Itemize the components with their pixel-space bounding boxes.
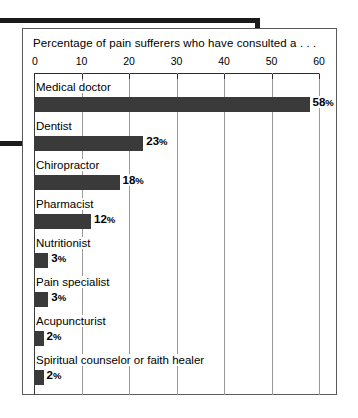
bar-value-unit: % <box>58 253 66 264</box>
x-tick-label-0: 0 <box>32 55 38 67</box>
page-rule-top <box>0 18 260 23</box>
bar <box>34 253 48 268</box>
bar-value-unit: % <box>53 370 61 381</box>
bar-value-label: 2% <box>44 330 64 342</box>
bar-value-unit: % <box>325 97 333 108</box>
chart-row: Pain specialist3% <box>34 276 319 315</box>
chart-container: Percentage of pain sufferers who have co… <box>22 28 337 395</box>
bar <box>34 97 310 112</box>
bar-category-label: Chiropractor <box>36 159 101 171</box>
bar-value-label: 2% <box>44 369 64 381</box>
chart-title: Percentage of pain sufferers who have co… <box>33 37 316 49</box>
bar-value-label: 58% <box>310 96 336 108</box>
bar-value-label: 3% <box>48 291 68 303</box>
bar <box>34 370 44 385</box>
chart-row: Spiritual counselor or faith healer2% <box>34 354 319 393</box>
x-tick-30 <box>177 74 178 79</box>
x-tick-60 <box>319 74 320 79</box>
x-tick-10 <box>82 74 83 79</box>
bar <box>34 331 44 346</box>
chart-row: Pharmacist12% <box>34 198 319 237</box>
bar-category-label: Medical doctor <box>36 81 113 93</box>
page-rule-left <box>0 141 24 146</box>
bar-value-number: 12 <box>94 213 107 225</box>
bar-value-unit: % <box>53 331 61 342</box>
x-tick-0 <box>34 74 35 79</box>
x-tick-20 <box>129 74 130 79</box>
bar-value-label: 12% <box>91 213 117 225</box>
bar-value-unit: % <box>58 292 66 303</box>
bar <box>34 136 143 151</box>
bar-value-label: 3% <box>48 252 68 264</box>
x-tick-label-60: 60 <box>313 55 325 67</box>
bar-category-label: Pharmacist <box>36 198 96 210</box>
bar-category-label: Spiritual counselor or faith healer <box>36 354 206 366</box>
x-tick-40 <box>224 74 225 79</box>
chart-row: Medical doctor58% <box>34 81 319 120</box>
bar-category-label: Dentist <box>36 120 74 132</box>
x-tick-label-50: 50 <box>266 55 278 67</box>
chart-row: Acupuncturist2% <box>34 315 319 354</box>
x-tick-label-40: 40 <box>218 55 230 67</box>
bar-category-label: Pain specialist <box>36 276 112 288</box>
bar-category-label: Acupuncturist <box>36 315 108 327</box>
plot-area: 0102030405060 Medical doctor58%Dentist23… <box>34 55 319 395</box>
bar <box>34 292 48 307</box>
bar-category-label: Nutritionist <box>36 237 92 249</box>
chart-row: Chiropractor18% <box>34 159 319 198</box>
x-tick-label-20: 20 <box>123 55 135 67</box>
bar-value-label: 23% <box>143 135 169 147</box>
x-tick-50 <box>272 74 273 79</box>
bar <box>34 214 91 229</box>
x-tick-label-30: 30 <box>171 55 183 67</box>
bar-value-unit: % <box>159 136 167 147</box>
bar-value-label: 18% <box>120 174 146 186</box>
chart-row: Dentist23% <box>34 120 319 159</box>
bar-value-number: 23 <box>146 135 159 147</box>
bar-value-number: 58 <box>313 96 326 108</box>
x-tick-label-10: 10 <box>76 55 88 67</box>
chart-row: Nutritionist3% <box>34 237 319 276</box>
bar-value-number: 18 <box>123 174 136 186</box>
bar <box>34 175 120 190</box>
bar-value-unit: % <box>107 214 115 225</box>
bar-value-unit: % <box>135 175 143 186</box>
gridline-60 <box>319 73 320 395</box>
